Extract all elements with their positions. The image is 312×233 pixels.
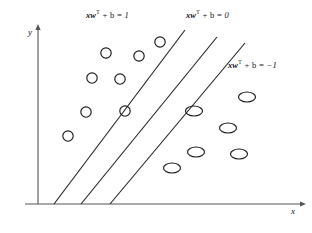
positive-class-group	[63, 37, 165, 141]
x-axis-arrowhead	[300, 201, 306, 206]
decision-boundary-group	[54, 30, 245, 204]
svm-margin-figure: xwT + b = 1 xwT + b = 0 xwT + b = −1 y x	[0, 0, 312, 233]
figure-canvas	[0, 0, 312, 233]
data-point-ellipse	[231, 149, 248, 159]
decision-hyperplane	[81, 37, 217, 204]
hyperplane-label: xwT + b = 0	[186, 9, 229, 20]
data-point-circle	[155, 37, 165, 47]
y-axis-label: y	[28, 27, 32, 37]
margin-upper-label: xwT + b = 1	[86, 9, 129, 20]
data-point-circle	[120, 106, 130, 116]
y-axis-arrowhead	[35, 24, 40, 30]
data-point-ellipse	[164, 163, 181, 173]
negative-class-group	[164, 92, 256, 173]
data-point-circle	[63, 131, 73, 141]
x-axis-label: x	[291, 206, 295, 216]
axes-group	[25, 24, 306, 207]
data-point-ellipse	[239, 92, 256, 102]
data-point-circle	[87, 73, 97, 83]
data-point-ellipse	[188, 147, 205, 157]
margin-lower-label: xwT + b = −1	[228, 59, 277, 70]
data-point-circle	[134, 51, 144, 61]
data-point-circle	[101, 48, 111, 58]
data-point-ellipse	[220, 123, 237, 133]
margin-line-positive	[54, 30, 185, 204]
data-point-circle	[81, 107, 91, 117]
data-point-circle	[115, 74, 125, 84]
